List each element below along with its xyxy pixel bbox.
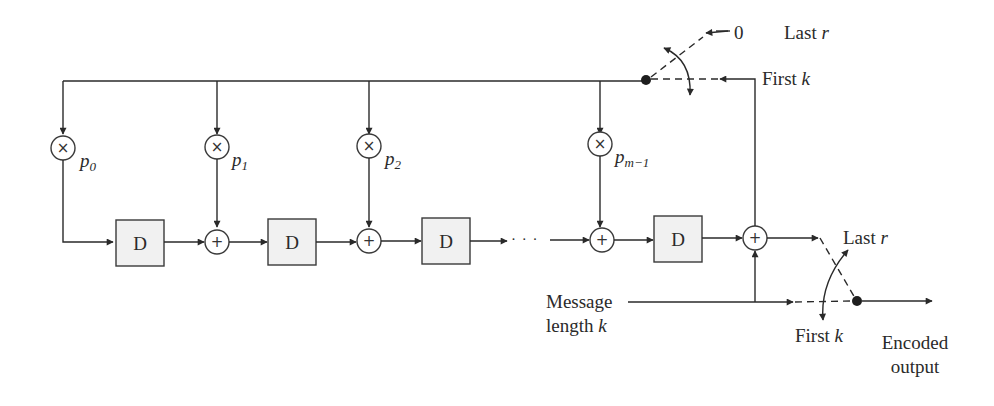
svg-text:First k: First k bbox=[795, 325, 844, 346]
lfsr-encoder-diagram: × p0 × p1 × p2 × pm−1 D D D D bbox=[0, 0, 994, 406]
multiplier-p0: × p0 bbox=[51, 136, 97, 174]
svg-text:output: output bbox=[891, 356, 940, 377]
svg-text:Last r: Last r bbox=[784, 22, 829, 43]
svg-text:D: D bbox=[671, 229, 685, 250]
adder-output: + bbox=[743, 226, 767, 250]
adder-1: + bbox=[205, 230, 229, 254]
svg-text:D: D bbox=[439, 231, 453, 252]
plus-icon: + bbox=[749, 229, 762, 247]
svg-text:p2: p2 bbox=[383, 148, 402, 172]
svg-text:pm−1: pm−1 bbox=[613, 146, 649, 170]
svg-text:p0: p0 bbox=[78, 150, 97, 174]
multiplier-p2: × p2 bbox=[357, 134, 402, 172]
plus-icon: + bbox=[211, 233, 224, 251]
delay-2: D bbox=[268, 219, 316, 265]
svg-text:Message: Message bbox=[546, 291, 612, 312]
svg-text:First k: First k bbox=[762, 68, 811, 89]
adder-m: + bbox=[590, 228, 614, 252]
svg-text:D: D bbox=[285, 232, 299, 253]
svg-text:0: 0 bbox=[734, 22, 744, 43]
feedback-switch: 0 Last r First k bbox=[641, 22, 829, 95]
svg-text:p1: p1 bbox=[230, 149, 248, 173]
multiplier-pm-1: × pm−1 bbox=[588, 132, 649, 170]
plus-icon: + bbox=[363, 232, 376, 250]
delay-3: D bbox=[422, 218, 470, 264]
multiply-icon: × bbox=[363, 137, 376, 155]
multiply-icon: × bbox=[594, 135, 607, 153]
delay-1: D bbox=[116, 220, 164, 266]
switch-arc-arrow bbox=[664, 48, 690, 95]
svg-text:Last r: Last r bbox=[843, 227, 888, 248]
switch-pivot bbox=[641, 75, 651, 85]
message-input: Message length k bbox=[546, 251, 852, 336]
svg-text:Encoded: Encoded bbox=[882, 332, 949, 353]
svg-text:D: D bbox=[133, 233, 147, 254]
encoded-output-label: Encoded output bbox=[882, 332, 949, 377]
feedback-bus bbox=[63, 81, 646, 134]
feedback-return bbox=[651, 79, 755, 226]
delay-m: D bbox=[654, 216, 702, 262]
multiplier-p1: × p1 bbox=[205, 135, 248, 173]
adder-2: + bbox=[357, 229, 381, 253]
multiply-icon: × bbox=[211, 138, 224, 156]
output-switch-arc-arrow bbox=[823, 250, 848, 320]
ellipsis: · · · bbox=[511, 231, 539, 247]
svg-text:length k: length k bbox=[546, 315, 607, 336]
output-path: Last r First k bbox=[767, 227, 932, 346]
multiply-icon: × bbox=[57, 139, 70, 157]
output-switch-pivot bbox=[852, 296, 862, 306]
plus-icon: + bbox=[596, 231, 609, 249]
